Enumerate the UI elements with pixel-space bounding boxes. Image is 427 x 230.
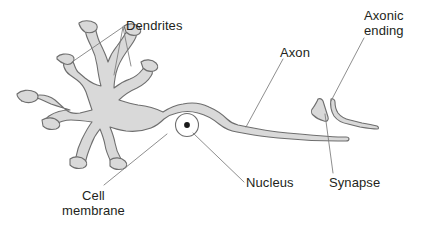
label-axon: Axon <box>280 45 310 60</box>
leader-line-synapse <box>325 114 333 173</box>
neuron-diagram: Dendrites Axon Axonicending Nucleus Syna… <box>0 0 427 230</box>
nucleus-group <box>176 114 199 137</box>
label-synapse: Synapse <box>329 175 380 190</box>
leader-line-axon <box>246 59 283 127</box>
dendrite-tip-upper-left <box>57 54 74 64</box>
leader-line-nucleus <box>193 133 244 182</box>
label-axonic-ending-line2: ending <box>364 23 404 38</box>
label-nucleus: Nucleus <box>246 175 294 190</box>
label-axonic-ending-line1: Axonic <box>364 8 404 23</box>
nucleolus-dot <box>184 122 190 128</box>
label-cell-membrane-line1: Cell <box>82 188 105 203</box>
label-dendrites: Dendrites <box>126 18 183 33</box>
dendrite-tip-left <box>17 90 38 102</box>
label-axonic-ending: Axonicending <box>364 8 404 38</box>
post-synaptic-terminal <box>331 99 379 129</box>
label-cell-membrane: Cellmembrane <box>62 188 125 218</box>
dendrite-tip-upper-mid <box>79 21 97 33</box>
dendrite-tip-lower-right <box>110 158 127 170</box>
dendrite-tip-lower-left <box>42 118 60 130</box>
neuron-cell-shape <box>17 21 379 170</box>
leader-line-axonic-ending <box>331 38 364 101</box>
label-cell-membrane-line2: membrane <box>62 203 125 218</box>
